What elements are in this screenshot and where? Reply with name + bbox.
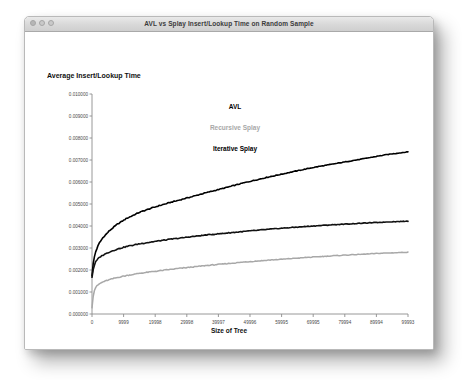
svg-text:0.010000: 0.010000 — [69, 92, 89, 97]
svg-text:0.000000: 0.000000 — [69, 312, 89, 317]
svg-text:0.007000: 0.007000 — [69, 158, 89, 163]
svg-text:0.005000: 0.005000 — [69, 202, 89, 207]
svg-text:99993: 99993 — [402, 320, 415, 325]
x-axis-title: Size of Tree — [25, 327, 433, 334]
svg-text:79994: 79994 — [338, 320, 351, 325]
screen-root: AVL vs Splay Insert/Lookup Time on Rando… — [0, 0, 462, 380]
svg-text:29998: 29998 — [180, 320, 193, 325]
plot-area: Average Insert/Lookup Time AVL Recursive… — [25, 32, 433, 349]
svg-text:0: 0 — [91, 320, 94, 325]
svg-text:69995: 69995 — [307, 320, 320, 325]
window-titlebar[interactable]: AVL vs Splay Insert/Lookup Time on Rando… — [25, 17, 433, 32]
svg-text:0.002000: 0.002000 — [69, 268, 89, 273]
svg-text:89994: 89994 — [370, 320, 383, 325]
window-title: AVL vs Splay Insert/Lookup Time on Rando… — [25, 19, 433, 29]
svg-text:0.003000: 0.003000 — [69, 246, 89, 251]
svg-text:0.004000: 0.004000 — [69, 224, 89, 229]
svg-text:0.009000: 0.009000 — [69, 114, 89, 119]
svg-text:9999: 9999 — [118, 320, 129, 325]
svg-text:0.006000: 0.006000 — [69, 180, 89, 185]
chart-canvas: Average Insert/Lookup Time AVL Recursive… — [25, 32, 433, 349]
app-window: AVL vs Splay Insert/Lookup Time on Rando… — [24, 16, 434, 350]
svg-text:39997: 39997 — [212, 320, 225, 325]
svg-text:49996: 49996 — [244, 320, 257, 325]
svg-text:0.001000: 0.001000 — [69, 290, 89, 295]
line-chart: 0.0000000.0010000.0020000.0030000.004000… — [25, 32, 433, 349]
svg-text:59995: 59995 — [275, 320, 288, 325]
svg-text:0.008000: 0.008000 — [69, 136, 89, 141]
svg-text:19998: 19998 — [149, 320, 162, 325]
